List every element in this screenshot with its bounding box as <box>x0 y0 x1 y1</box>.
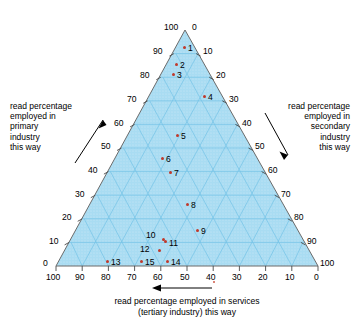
data-point-label-6: 6 <box>166 154 171 164</box>
right-tick-70: 70 <box>281 189 291 199</box>
data-point-label-1: 1 <box>188 43 193 53</box>
bottom-tick-70: 70 <box>127 272 137 282</box>
data-point-label-9: 9 <box>201 226 206 236</box>
left-tick-60: 60 <box>114 118 124 128</box>
data-point-label-12: 12 <box>140 244 150 254</box>
data-point-label-2: 2 <box>180 60 185 70</box>
left-tick-50: 50 <box>101 141 111 151</box>
left-tick-80: 80 <box>140 70 150 80</box>
bottom-tick-30: 30 <box>232 272 242 282</box>
data-point-12[interactable] <box>158 249 161 252</box>
left-tick-100: 100 <box>164 22 178 32</box>
left-annotation-line-1: read percentage <box>10 101 72 111</box>
data-point-3[interactable] <box>172 73 175 76</box>
data-point-label-4: 4 <box>208 92 213 102</box>
bottom-tick-10: 10 <box>285 272 295 282</box>
stray-dot <box>213 281 215 283</box>
left-tick-0: 0 <box>43 258 48 268</box>
data-point-5[interactable] <box>176 134 179 137</box>
right-annotation-line-5: this way <box>258 142 350 152</box>
right-tick-20: 20 <box>216 70 226 80</box>
arrow-bottom-head <box>152 285 161 292</box>
right-annotation-line-1: read percentage <box>258 101 350 111</box>
right-tick-90: 90 <box>307 236 317 246</box>
bottom-tick-20: 20 <box>258 272 268 282</box>
right-tick-40: 40 <box>242 118 252 128</box>
bottom-annotation-line-1: read percentage employed in services <box>56 296 318 307</box>
right-annotation-line-4: industry <box>258 132 350 142</box>
data-point-label-10: 10 <box>146 230 156 240</box>
ternary-diagram-figure: 100 90 80 70 60 50 40 30 20 10 0 0 10 20… <box>0 0 355 327</box>
data-point-8[interactable] <box>186 203 189 206</box>
bottom-tick-60: 60 <box>153 272 163 282</box>
left-annotation-line-2: employed in <box>10 111 72 121</box>
data-point-label-14: 14 <box>171 257 181 267</box>
arrow-left-shaft <box>75 120 103 163</box>
left-tick-90: 90 <box>153 46 163 56</box>
right-tick-0: 0 <box>192 22 197 32</box>
left-tick-20: 20 <box>62 212 72 222</box>
bottom-tick-100: 100 <box>46 272 60 282</box>
left-tick-10: 10 <box>49 236 59 246</box>
data-point-4[interactable] <box>203 95 206 98</box>
data-point-label-3: 3 <box>177 70 182 80</box>
right-tick-10: 10 <box>203 46 213 56</box>
data-point-15[interactable] <box>140 260 143 263</box>
data-point-label-5: 5 <box>181 131 186 141</box>
left-tick-70: 70 <box>127 94 137 104</box>
left-annotation-line-5: this way <box>10 142 72 152</box>
data-point-label-8: 8 <box>191 200 196 210</box>
data-point-label-11: 11 <box>169 238 178 248</box>
data-point-7[interactable] <box>169 171 172 174</box>
bottom-tick-90: 90 <box>75 272 85 282</box>
right-annotation: read percentage employed in secondary in… <box>258 101 350 152</box>
data-point-label-15: 15 <box>145 257 155 267</box>
bottom-annotation: read percentage employed in services (te… <box>56 296 318 317</box>
right-tick-100: 100 <box>320 258 334 268</box>
bottom-tick-50: 50 <box>180 272 190 282</box>
bottom-tick-80: 80 <box>101 272 111 282</box>
right-tick-30: 30 <box>229 94 239 104</box>
data-point-label-13: 13 <box>111 257 121 267</box>
data-point-2[interactable] <box>175 63 178 66</box>
data-point-label-7: 7 <box>174 168 179 178</box>
left-annotation-line-3: primary <box>10 121 72 131</box>
data-point-13[interactable] <box>106 260 109 263</box>
right-tick-80: 80 <box>294 212 304 222</box>
left-tick-40: 40 <box>88 165 98 175</box>
data-point-6[interactable] <box>161 157 164 160</box>
data-point-1[interactable] <box>183 46 186 49</box>
right-tick-60: 60 <box>268 165 278 175</box>
left-annotation-line-4: industry <box>10 132 72 142</box>
data-point-9[interactable] <box>196 229 199 232</box>
data-point-14[interactable] <box>166 260 169 263</box>
bottom-tick-0: 0 <box>314 272 319 282</box>
bottom-annotation-line-2: (tertiary industry) this way <box>56 307 318 318</box>
left-tick-30: 30 <box>75 189 85 199</box>
right-annotation-line-2: employed in <box>258 111 350 121</box>
right-annotation-line-3: secondary <box>258 121 350 131</box>
data-point-11[interactable] <box>164 240 167 243</box>
left-annotation: read percentage employed in primary indu… <box>10 101 72 152</box>
